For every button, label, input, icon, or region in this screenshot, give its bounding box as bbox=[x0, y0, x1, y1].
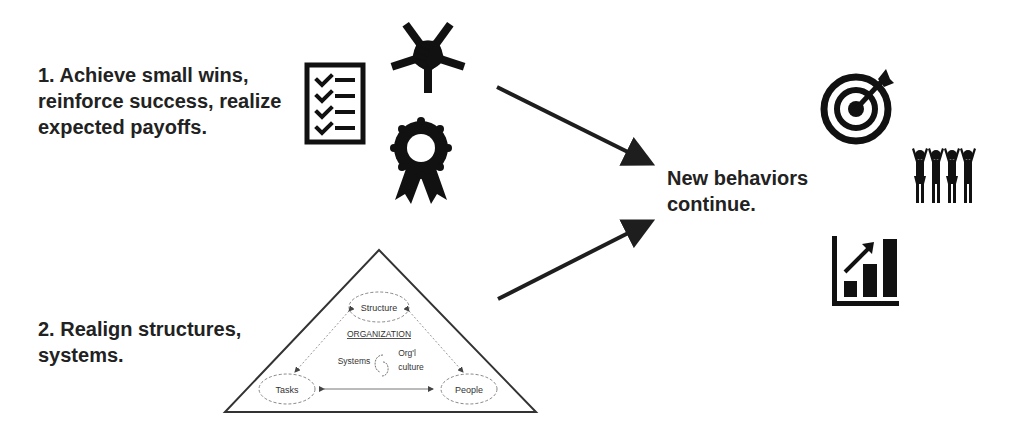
node-tasks-label: Tasks bbox=[275, 385, 299, 395]
teamwork-hands-icon bbox=[388, 17, 467, 93]
celebrating-team-icon bbox=[912, 148, 976, 203]
node-people-label: People bbox=[455, 385, 483, 395]
systems-label: Systems bbox=[338, 356, 371, 366]
arrow-step2-to-result bbox=[498, 223, 648, 299]
node-structure-label: Structure bbox=[361, 303, 398, 313]
checklist-icon bbox=[307, 65, 363, 142]
arrow-step1-to-result bbox=[497, 87, 648, 162]
target-arrow-icon bbox=[824, 69, 894, 141]
diagram-canvas: Structure ORGANIZATION Systems Org'l cul… bbox=[0, 0, 1020, 446]
organization-triangle: Structure ORGANIZATION Systems Org'l cul… bbox=[225, 250, 536, 412]
growth-chart-icon bbox=[832, 236, 899, 306]
orgl-culture-line1: Org'l bbox=[398, 348, 416, 358]
orgl-culture-line2: culture bbox=[398, 362, 424, 372]
organization-title: ORGANIZATION bbox=[347, 329, 411, 339]
award-ribbon-icon bbox=[390, 117, 452, 204]
